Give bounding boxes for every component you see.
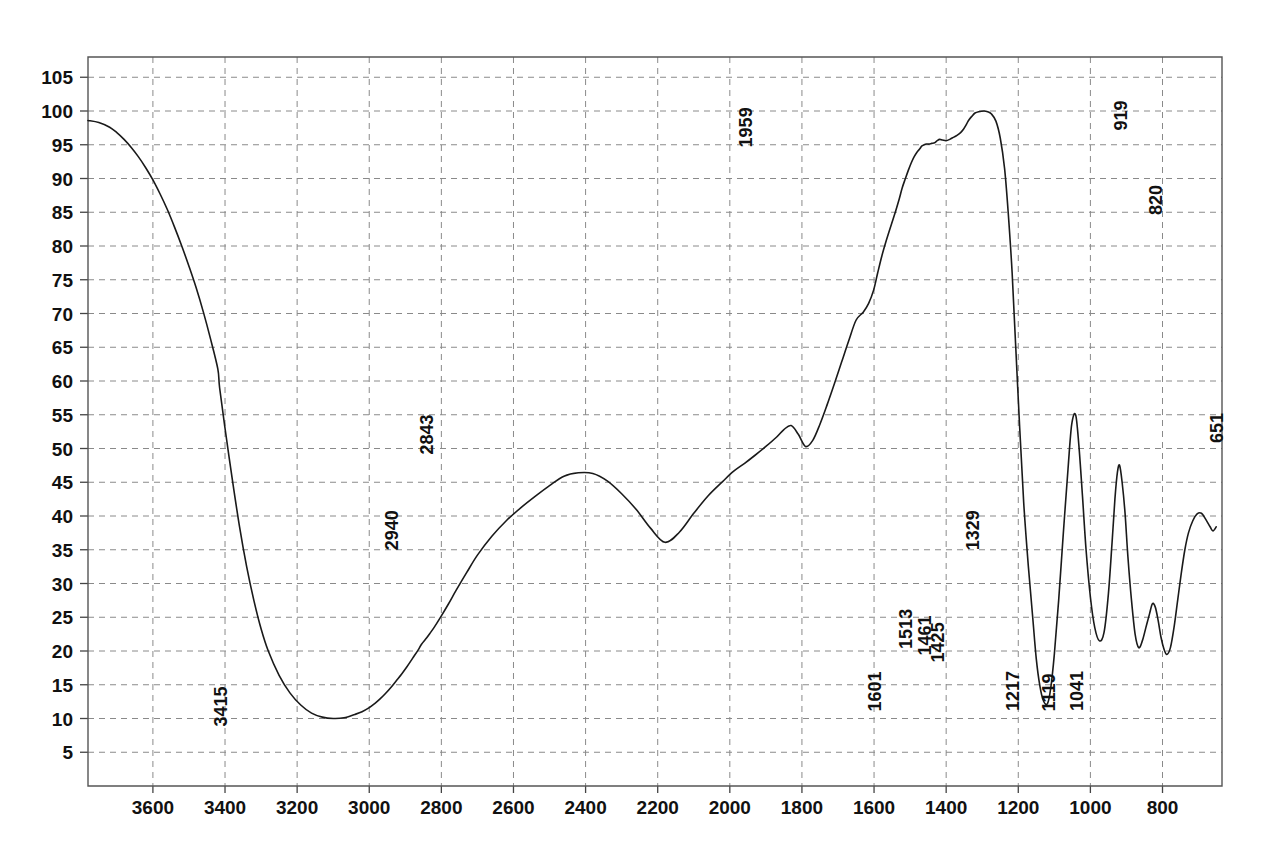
x-axis-labels: 3600340032003000280026002400220020001800… (132, 797, 1179, 818)
y-axis-labels: 5101520253035404550556065707580859095100… (41, 67, 73, 763)
peak-wavenumber-label: 3415 (211, 686, 231, 726)
y-axis-tick-label: 20 (52, 641, 73, 662)
peak-wavenumber-label: 1217 (1003, 671, 1023, 711)
peak-wavenumber-label: 2843 (417, 414, 437, 454)
peak-wavenumber-label: 651 (1207, 413, 1227, 443)
y-axis-tick-label: 75 (52, 270, 74, 291)
x-axis-tick-label: 2800 (420, 797, 462, 818)
y-axis-tick-label: 25 (52, 607, 74, 628)
x-axis-tick-label: 2600 (492, 797, 534, 818)
y-axis-tick-label: 40 (52, 506, 73, 527)
peak-wavenumber-label: 1329 (963, 510, 983, 550)
y-axis-tick-label: 35 (52, 540, 74, 561)
ir-spectrum-figure: 5101520253035404550556065707580859095100… (0, 0, 1280, 857)
y-axis-tick-label: 30 (52, 574, 73, 595)
peak-wavenumber-label: 2940 (382, 510, 402, 550)
y-axis-tick-label: 55 (52, 405, 74, 426)
x-axis-tick-label: 1600 (853, 797, 895, 818)
y-axis-tick-label: 10 (52, 709, 73, 730)
peak-wavenumber-label: 1513 (896, 609, 916, 649)
y-axis-tick-label: 60 (52, 371, 73, 392)
peak-wavenumber-label: 1119 (1039, 674, 1059, 712)
y-axis-tick-label: 100 (41, 101, 73, 122)
y-axis-tick-label: 85 (52, 202, 74, 223)
y-axis-tick-label: 65 (52, 337, 74, 358)
y-axis-tick-label: 105 (41, 67, 73, 88)
peak-wavenumber-label: 1425 (928, 622, 948, 662)
peak-wavenumber-label: 1601 (865, 672, 885, 712)
y-axis-tick-label: 70 (52, 304, 73, 325)
axis-ticks (80, 77, 1163, 793)
x-axis-tick-label: 3600 (132, 797, 174, 818)
x-axis-tick-label: 1000 (1069, 797, 1111, 818)
x-axis-tick-label: 3000 (348, 797, 390, 818)
peak-wavenumber-label: 919 (1111, 100, 1131, 130)
peak-wavenumber-label: 1959 (736, 107, 756, 147)
y-axis-tick-label: 15 (52, 675, 74, 696)
x-axis-tick-label: 2400 (564, 797, 606, 818)
x-axis-tick-label: 3400 (204, 797, 246, 818)
y-axis-tick-label: 80 (52, 236, 73, 257)
x-axis-tick-label: 2000 (709, 797, 751, 818)
x-axis-tick-label: 3200 (276, 797, 318, 818)
x-axis-tick-label: 1200 (997, 797, 1039, 818)
peak-wavenumber-label: 820 (1146, 185, 1166, 215)
y-axis-tick-label: 50 (52, 439, 73, 460)
x-axis-tick-label: 800 (1147, 797, 1179, 818)
y-axis-tick-label: 90 (52, 169, 73, 190)
x-axis-tick-label: 1800 (781, 797, 823, 818)
y-axis-tick-label: 45 (52, 472, 74, 493)
y-axis-tick-label: 5 (62, 742, 73, 763)
y-axis-tick-label: 95 (52, 135, 74, 156)
peak-wavenumber-label: 1041 (1067, 671, 1087, 711)
spectrum-chart: 5101520253035404550556065707580859095100… (0, 0, 1280, 857)
x-axis-tick-label: 2200 (637, 797, 679, 818)
x-axis-tick-label: 1400 (925, 797, 967, 818)
